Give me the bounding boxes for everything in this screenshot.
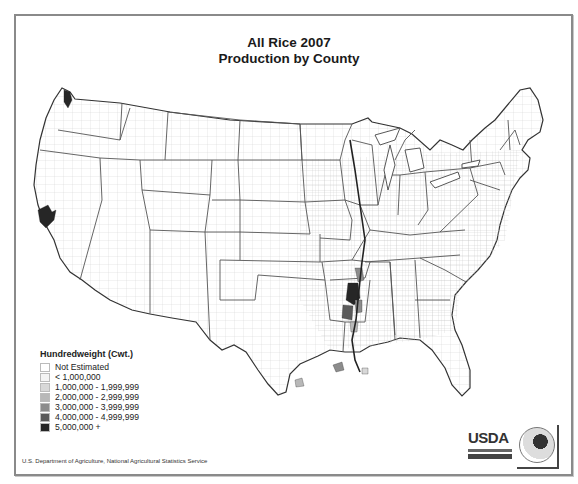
legend-item: 3,000,000 - 3,999,999: [40, 402, 139, 412]
legend-swatch: [40, 373, 50, 382]
legend: Hundredweight (Cwt.) Not Estimated < 1,0…: [40, 349, 139, 432]
legend-item: 4,000,000 - 4,999,999: [40, 412, 139, 422]
usda-stripe-icon: [468, 447, 512, 459]
legend-swatch: [40, 363, 50, 372]
source-credit: U.S. Department of Agriculture, National…: [22, 458, 207, 464]
southwest-louisiana: [333, 362, 344, 372]
usda-logo: USDA: [468, 430, 512, 466]
legend-item: 2,000,000 - 2,999,999: [40, 392, 139, 402]
legend-item: 1,000,000 - 1,999,999: [40, 382, 139, 392]
legend-item: 5,000,000 +: [40, 422, 139, 432]
legend-item: < 1,000,000: [40, 372, 139, 382]
legend-swatch: [40, 423, 50, 432]
texas-gulf-coast: [295, 378, 304, 387]
legend-title: Hundredweight (Cwt.): [40, 349, 139, 359]
legend-swatch: [40, 413, 50, 422]
legend-swatch: [40, 383, 50, 392]
legend-item: Not Estimated: [40, 362, 139, 372]
census-of-agriculture-logo: [517, 425, 559, 469]
legend-swatch: [40, 403, 50, 412]
legend-swatch: [40, 393, 50, 402]
agriculture-counts-seal-icon: [519, 427, 555, 463]
